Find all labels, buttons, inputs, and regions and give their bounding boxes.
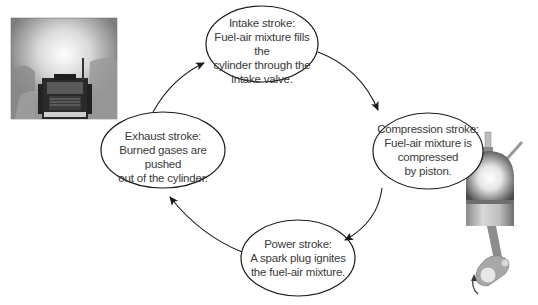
compression-line-1: Fuel-air mixture is	[373, 136, 483, 150]
intake-line-3: intake valve.	[206, 72, 318, 86]
arrow-compression-to-power	[345, 188, 382, 240]
intake-line-1: Fuel-air mixture fills the	[206, 30, 318, 58]
compression-title: Compression stroke:	[373, 122, 483, 136]
arrow-power-to-exhaust	[170, 197, 242, 252]
intake-line-2: cylinder through the	[206, 58, 318, 72]
truck-exhaust-photo	[11, 18, 117, 119]
compression-line-3: by piston.	[373, 164, 483, 178]
exhaust-title: Exhaust stroke:	[101, 129, 225, 143]
power-line-1: A spark plug ignites	[241, 251, 355, 265]
power-line-2: the fuel-air mixture.	[241, 265, 355, 279]
power-title: Power stroke:	[241, 237, 355, 251]
arrow-exhaust-to-intake	[153, 63, 204, 112]
compression-line-2: compressed	[373, 150, 483, 164]
power-text: Power stroke: A spark plug ignites the f…	[241, 237, 355, 279]
exhaust-text: Exhaust stroke: Burned gases are pushed …	[101, 129, 225, 185]
exhaust-line-2: out of the cylinder.	[101, 171, 225, 185]
intake-title: Intake stroke:	[206, 16, 318, 30]
compression-text: Compression stroke: Fuel-air mixture is …	[373, 122, 483, 178]
arrow-intake-to-compression	[318, 52, 378, 110]
exhaust-line-1: Burned gases are pushed	[101, 143, 225, 171]
intake-text: Intake stroke: Fuel-air mixture fills th…	[206, 16, 318, 86]
